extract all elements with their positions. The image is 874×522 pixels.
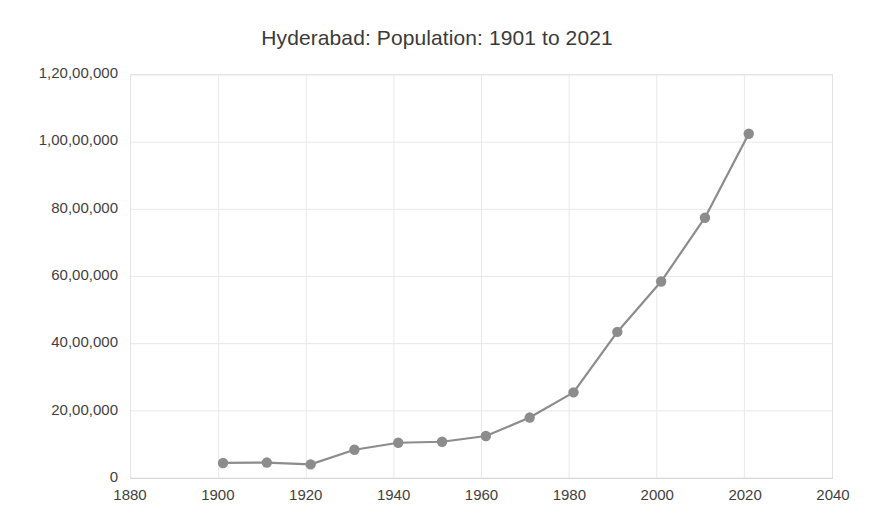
- x-axis-tick-label: 1920: [271, 486, 341, 503]
- x-axis-tick-label: 1880: [95, 486, 165, 503]
- x-axis-tick-label: 1980: [534, 486, 604, 503]
- chart-container: Hyderabad: Population: 1901 to 2021 020,…: [0, 0, 874, 522]
- x-axis-tick-label: 2020: [710, 486, 780, 503]
- x-axis-tick-label: 1940: [359, 486, 429, 503]
- x-axis-tick-label: 2040: [798, 486, 868, 503]
- x-axis-tick-label: 2000: [622, 486, 692, 503]
- x-axis: 188019001920194019601980200020202040: [0, 0, 874, 522]
- x-axis-tick-label: 1900: [183, 486, 253, 503]
- x-axis-tick-label: 1960: [447, 486, 517, 503]
